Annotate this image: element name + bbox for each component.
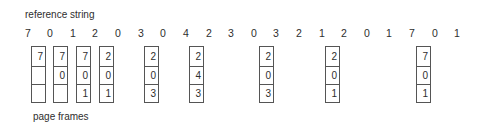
frame-column: 203 — [259, 46, 274, 103]
reference-digit: 3 — [270, 27, 282, 39]
frame-cell — [32, 84, 45, 102]
frame-cell: 7 — [32, 47, 45, 66]
reference-digit: 0 — [157, 27, 169, 39]
reference-digit: 0 — [429, 27, 441, 39]
frame-cell: 2 — [145, 47, 158, 66]
frame-cell: 0 — [100, 66, 113, 84]
frame-cell: 0 — [145, 66, 158, 84]
frame-cell — [54, 84, 67, 102]
frame-cell: 0 — [326, 66, 339, 84]
page-frames-label: page frames — [33, 111, 89, 122]
frame-cell — [32, 66, 45, 84]
frame-column: 203 — [144, 46, 159, 103]
reference-digit: 1 — [383, 27, 395, 39]
frame-cell: 4 — [190, 66, 203, 84]
frame-cell: 0 — [417, 66, 430, 84]
frame-column: 201 — [325, 46, 340, 103]
reference-digit: 0 — [44, 27, 56, 39]
reference-digit: 1 — [316, 27, 328, 39]
reference-digit: 1 — [67, 27, 79, 39]
frame-cell: 7 — [77, 47, 90, 66]
reference-digit: 0 — [248, 27, 260, 39]
reference-digit: 1 — [451, 27, 463, 39]
reference-digit: 2 — [203, 27, 215, 39]
frame-cell: 1 — [77, 84, 90, 102]
reference-digit: 2 — [89, 27, 101, 39]
reference-digit: 3 — [225, 27, 237, 39]
frame-cell: 1 — [417, 84, 430, 102]
reference-digit: 4 — [180, 27, 192, 39]
reference-digit: 0 — [112, 27, 124, 39]
frame-cell: 2 — [260, 47, 273, 66]
frame-cell: 1 — [100, 84, 113, 102]
frame-column: 243 — [189, 46, 204, 103]
frame-column: 701 — [76, 46, 91, 103]
frame-column: 201 — [99, 46, 114, 103]
frame-cell: 0 — [77, 66, 90, 84]
frame-cell: 7 — [417, 47, 430, 66]
reference-digit: 0 — [361, 27, 373, 39]
frame-cell: 3 — [260, 84, 273, 102]
frame-cell: 2 — [326, 47, 339, 66]
reference-string-title: reference string — [25, 9, 94, 20]
frame-cell: 7 — [54, 47, 67, 66]
reference-digit: 2 — [293, 27, 305, 39]
frame-cell: 1 — [326, 84, 339, 102]
reference-digit: 7 — [406, 27, 418, 39]
reference-digit: 3 — [135, 27, 147, 39]
frame-column: 701 — [416, 46, 431, 103]
reference-digit: 7 — [22, 27, 34, 39]
frame-cell: 2 — [190, 47, 203, 66]
frame-column: 7 — [31, 46, 46, 103]
frame-cell: 2 — [100, 47, 113, 66]
reference-digit: 2 — [338, 27, 350, 39]
frame-cell: 0 — [260, 66, 273, 84]
frame-column: 70 — [53, 46, 68, 103]
frame-cell: 3 — [190, 84, 203, 102]
frame-cell: 0 — [54, 66, 67, 84]
frame-cell: 3 — [145, 84, 158, 102]
